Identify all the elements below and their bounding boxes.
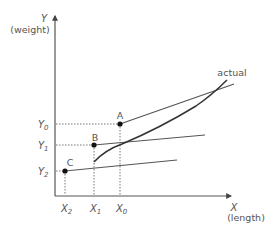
- y0-label: Y0: [38, 119, 49, 132]
- actual-curve: [94, 80, 227, 162]
- line-c: [65, 160, 177, 171]
- actual-label: actual: [217, 67, 246, 78]
- y-axis-label: (weight): [10, 24, 49, 35]
- x2-label: X2: [60, 203, 73, 216]
- point-b-label: B: [92, 132, 99, 143]
- point-c: [62, 168, 67, 173]
- x0-label: X0: [115, 203, 128, 216]
- point-a-label: A: [117, 110, 124, 121]
- line-b: [94, 135, 205, 145]
- guide-lines: [56, 124, 120, 195]
- point-a: [117, 121, 122, 126]
- x1-label: X1: [89, 203, 101, 216]
- y-axis-symbol: Y: [41, 13, 48, 24]
- weight-length-diagram: Y (weight) X (length) actual A B C Y0 Y1…: [0, 0, 273, 235]
- point-c-label: C: [67, 157, 74, 168]
- point-b: [91, 142, 96, 147]
- x-axis-label: (length): [227, 212, 265, 223]
- y1-label: Y1: [38, 140, 49, 153]
- y2-label: Y2: [38, 166, 49, 179]
